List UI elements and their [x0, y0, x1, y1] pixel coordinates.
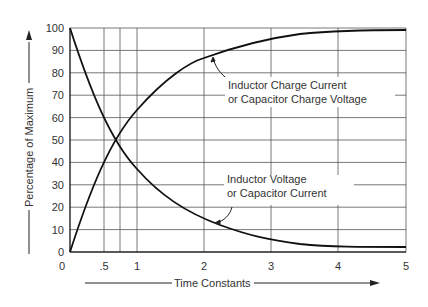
y-tick: 20 — [52, 201, 64, 213]
x-tick-labels: 0 .5 1 2 3 4 5 — [59, 260, 409, 272]
y-tick: 80 — [52, 67, 64, 79]
annotation-rise-line1: Inductor Charge Current — [228, 79, 347, 91]
y-tick: 50 — [52, 134, 64, 146]
annotation-fall-line2: or Capacitor Current — [227, 187, 327, 199]
y-tick: 10 — [52, 224, 64, 236]
annotation-rise-line2: or Capacitor Charge Voltage — [228, 93, 367, 105]
y-tick: 70 — [52, 89, 64, 101]
x-tick: .5 — [99, 260, 108, 272]
y-tick: 60 — [52, 112, 64, 124]
x-axis-arrow-icon — [370, 280, 380, 286]
y-axis-arrow-icon — [26, 30, 32, 40]
y-tick: 40 — [52, 156, 64, 168]
x-tick: 5 — [403, 260, 409, 272]
x-axis-label: Time Constants — [174, 277, 251, 289]
y-tick: 30 — [52, 179, 64, 191]
y-tick-labels: 0 10 20 30 40 50 60 70 80 90 100 — [46, 22, 64, 258]
annotation-arrow-rise — [211, 57, 229, 80]
x-tick: 2 — [201, 260, 207, 272]
x-tick: 0 — [59, 260, 65, 272]
x-tick: 4 — [335, 260, 341, 272]
annotation-arrow-fall — [215, 207, 232, 224]
rc-time-constant-chart: Inductor Charge Current or Capacitor Cha… — [0, 0, 428, 307]
y-axis-label: Percentage of Maximum — [23, 88, 35, 207]
y-tick: 100 — [46, 22, 64, 34]
y-tick: 90 — [52, 44, 64, 56]
x-tick: 3 — [268, 260, 274, 272]
annotation-fall-line1: Inductor Voltage — [227, 173, 307, 185]
grid — [70, 28, 406, 252]
y-tick: 0 — [58, 246, 64, 258]
x-tick: 1 — [134, 260, 140, 272]
